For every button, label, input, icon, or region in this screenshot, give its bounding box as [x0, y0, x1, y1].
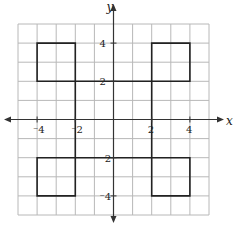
- y-axis-down-arrow-icon: [111, 216, 117, 223]
- y-tick-label: ⁻4: [100, 191, 112, 202]
- axes: xy: [4, 0, 233, 223]
- y-tick-label: 4: [100, 38, 106, 49]
- y-tick-label: 2: [100, 76, 106, 87]
- y-axis-label: y: [106, 0, 114, 14]
- x-tick-label: 4: [186, 124, 192, 135]
- y-tick-label: ⁻2: [100, 153, 112, 164]
- x-tick-label: ⁻2: [71, 124, 83, 135]
- x-axis-left-arrow-icon: [4, 117, 11, 123]
- x-axis-right-arrow-icon: [217, 117, 224, 123]
- x-tick-label: ⁻4: [33, 124, 45, 135]
- coordinate-plane: xy ⁻4⁻22442⁻2⁻4: [0, 0, 233, 227]
- x-axis-label: x: [226, 114, 233, 128]
- x-tick-label: 2: [148, 124, 154, 135]
